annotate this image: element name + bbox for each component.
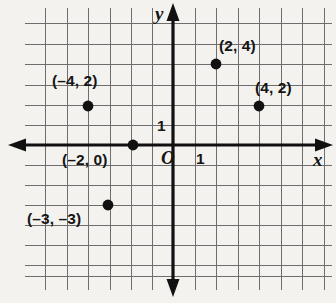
- point-4-2: [254, 101, 265, 112]
- point-neg3-neg3: [103, 200, 114, 211]
- x-axis-arrow-left: [8, 139, 26, 152]
- point-label-neg2-0: (–2, 0): [62, 152, 108, 168]
- point-label-2-4: (2, 4): [219, 38, 256, 54]
- point-2-4: [211, 59, 222, 70]
- y-axis-arrow-up: [167, 3, 180, 21]
- x-axis-label: x: [313, 150, 323, 169]
- y-axis-arrow-down: [167, 279, 180, 297]
- coordinate-plane-figure: (2, 4) (4, 2) (–4, 2) (–2, 0) (–3, –3) y…: [0, 0, 336, 303]
- grid-vertical-lines: [46, 8, 325, 290]
- origin-label: O: [161, 148, 175, 167]
- x-axis-unit-tick-label: 1: [196, 151, 205, 167]
- point-neg2-0: [128, 140, 139, 151]
- point-label-neg3-neg3: (–3, –3): [27, 211, 81, 227]
- y-axis-label: y: [155, 4, 163, 23]
- point-label-4-2: (4, 2): [255, 80, 292, 96]
- grid-horizontal-lines: [25, 24, 332, 277]
- point-neg4-2: [83, 101, 94, 112]
- point-label-neg4-2: (–4, 2): [52, 73, 98, 89]
- y-axis-unit-tick-label: 1: [157, 118, 166, 134]
